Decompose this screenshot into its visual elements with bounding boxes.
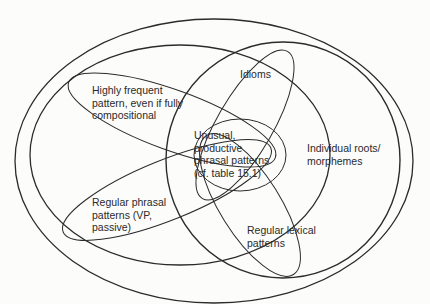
label-individual-roots: Individual roots/ morphemes <box>307 142 381 167</box>
label-line: Unusual, <box>194 129 269 142</box>
label-idioms: Idioms <box>240 68 271 81</box>
label-line: (cf. table 15.1) <box>194 167 269 180</box>
label-line: Idioms <box>240 68 271 81</box>
label-line: patterns <box>247 237 316 250</box>
label-line: Regular phrasal <box>92 196 166 209</box>
label-line: compositional <box>92 109 183 122</box>
idioms-ellipse <box>178 37 311 212</box>
label-unusual-productive: Unusual, productive phrasal patterns (cf… <box>194 129 269 179</box>
label-line: morphemes <box>307 155 381 168</box>
label-line: Highly frequent <box>92 84 183 97</box>
label-line: passive) <box>92 221 166 234</box>
label-line: productive <box>194 142 269 155</box>
label-line: pattern, even if fully <box>92 97 183 110</box>
label-regular-lexical: Regular lexical patterns <box>247 224 316 249</box>
label-line: phrasal patterns <box>194 154 269 167</box>
label-line: patterns (VP, <box>92 209 166 222</box>
label-line: Regular lexical <box>247 224 316 237</box>
label-regular-phrasal: Regular phrasal patterns (VP, passive) <box>92 196 166 234</box>
label-line: Individual roots/ <box>307 142 381 155</box>
label-highly-frequent: Highly frequent pattern, even if fully c… <box>92 84 183 122</box>
